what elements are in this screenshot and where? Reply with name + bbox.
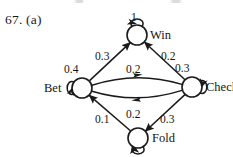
weight-check-to-bet: 0.2 xyxy=(126,108,140,120)
weight-check-self-loop: 0.3 xyxy=(175,62,189,74)
weight-win-self-loop: 1 xyxy=(131,11,137,23)
weight-check-to-win: 0.2 xyxy=(161,50,175,62)
state-label-check: Check xyxy=(206,80,233,95)
state-label-bet: Bet xyxy=(44,81,61,96)
state-node-win xyxy=(127,25,147,45)
weight-bet-to-win: 0.3 xyxy=(95,50,109,62)
state-label-fold: Fold xyxy=(152,131,175,146)
state-node-fold xyxy=(128,128,148,148)
weight-bet-self-loop: 0.4 xyxy=(64,63,78,75)
diagram-page: 67. (a) xyxy=(0,0,233,157)
state-node-check xyxy=(182,77,202,97)
weight-bet-to-check: 0.2 xyxy=(126,63,140,75)
edge-bet-to-check xyxy=(92,73,182,85)
weight-check-to-fold: 0.3 xyxy=(160,113,174,125)
edge-check-to-bet xyxy=(92,90,182,101)
state-node-bet xyxy=(72,78,92,98)
state-diagram-canvas xyxy=(0,0,233,157)
state-label-win: Win xyxy=(150,28,171,43)
weight-fold-to-bet: 0.1 xyxy=(95,113,109,125)
